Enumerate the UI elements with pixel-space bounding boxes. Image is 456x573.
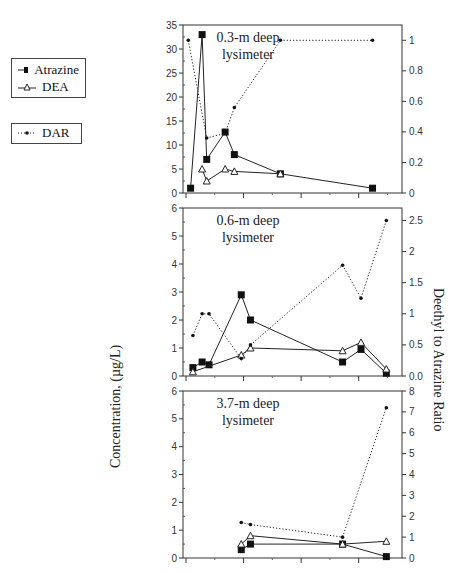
y-right-tick-label: 5	[409, 448, 415, 459]
atrazine-marker	[358, 346, 365, 353]
y-right-tick-label: 1	[409, 35, 415, 46]
y-tick-label: 5	[171, 413, 177, 424]
atrazine-marker	[383, 553, 390, 560]
y-right-tick-label: 0.4	[409, 126, 423, 137]
series-line-atrazine	[191, 35, 373, 189]
y-tick-label: 4	[171, 441, 177, 452]
y-tick-label: 5	[171, 164, 177, 175]
panel-title: lysimeter	[222, 230, 274, 245]
y-right-tick-label: 0.8	[409, 65, 423, 76]
y-tick-label: 4	[171, 259, 177, 270]
series-line-dea	[202, 169, 280, 181]
panel-2: 01234560.00.511.522.50.6-m deeplysimeter	[171, 203, 423, 382]
y-tick-label: 1	[171, 343, 177, 354]
y-tick-label: 15	[166, 116, 178, 127]
y-tick-label: 10	[166, 140, 178, 151]
atrazine-marker	[339, 359, 346, 366]
y-tick-label: 35	[166, 20, 178, 31]
panel-title: lysimeter	[222, 413, 274, 428]
y-tick-label: 0	[171, 188, 177, 199]
y-tick-label: 25	[166, 68, 178, 79]
dar-marker	[341, 535, 345, 539]
y-axis-right-title: Deethyl to Atrazine Ratio	[430, 288, 446, 431]
y-tick-label: 6	[171, 386, 177, 397]
dar-marker	[385, 219, 389, 223]
dar-marker	[223, 132, 227, 136]
y-right-tick-label: 4	[409, 469, 415, 480]
dar-marker	[205, 136, 209, 140]
dar-marker	[191, 334, 195, 338]
y-tick-label: 0	[171, 371, 177, 382]
dar-marker	[187, 38, 191, 42]
y-tick-label: 20	[166, 92, 178, 103]
panel-title: 0.6-m deep	[217, 213, 280, 228]
dar-marker	[279, 38, 283, 42]
atrazine-marker	[199, 359, 206, 366]
series-line-dea	[241, 536, 386, 544]
y-right-tick-label: 0	[409, 553, 415, 564]
dar-marker	[359, 296, 363, 300]
panel-title: 0.3-m deep	[217, 30, 280, 45]
atrazine-marker	[247, 317, 254, 324]
atrazine-marker	[187, 185, 194, 192]
y-right-tick-label: 0.0	[409, 371, 423, 382]
y-right-tick-label: 0.2	[409, 157, 423, 168]
y-right-tick-label: 6	[409, 427, 415, 438]
y-right-tick-label: 1.5	[409, 277, 423, 288]
y-right-tick-label: 1	[409, 308, 415, 319]
atrazine-marker	[238, 291, 245, 298]
dar-marker	[200, 312, 204, 316]
plot-frame	[183, 391, 402, 558]
y-tick-label: 3	[171, 469, 177, 480]
panel-3: 01234560123456783.7-m deeplysimeter	[171, 386, 415, 564]
atrazine-marker	[231, 151, 238, 158]
series-line-atrazine	[241, 544, 386, 557]
dea-marker	[358, 339, 365, 346]
y-tick-label: 1	[171, 525, 177, 536]
dar-marker	[385, 406, 389, 410]
atrazine-marker	[247, 541, 254, 548]
atrazine-marker	[203, 156, 210, 163]
dar-marker	[371, 38, 375, 42]
dar-marker	[249, 523, 253, 527]
panel-1: 0510152025303500.20.40.60.810.3-m deeply…	[166, 20, 423, 199]
dar-marker	[239, 521, 243, 525]
dea-marker	[199, 166, 206, 173]
y-tick-label: 6	[171, 203, 177, 214]
y-right-tick-label: 0.5	[409, 339, 423, 350]
dea-marker	[203, 178, 210, 185]
dar-marker	[249, 343, 253, 347]
series-line-dar	[188, 40, 372, 138]
y-right-tick-label: 0	[409, 188, 415, 199]
chart-canvas: 0510152025303500.20.40.60.810.3-m deeply…	[0, 0, 456, 573]
y-right-tick-label: 3	[409, 490, 415, 501]
dar-marker	[239, 357, 243, 361]
dar-marker	[207, 312, 211, 316]
y-right-tick-label: 8	[409, 386, 415, 397]
y-right-tick-label: 2	[409, 246, 415, 257]
dar-marker	[341, 263, 345, 267]
y-right-tick-label: 2.5	[409, 215, 423, 226]
atrazine-marker	[199, 31, 206, 38]
y-tick-label: 3	[171, 287, 177, 298]
y-right-tick-label: 0.6	[409, 96, 423, 107]
y-tick-label: 2	[171, 315, 177, 326]
panel-title: lysimeter	[222, 47, 274, 62]
series-line-dea	[193, 342, 386, 371]
y-tick-label: 30	[166, 44, 178, 55]
y-right-tick-label: 2	[409, 511, 415, 522]
dea-marker	[222, 166, 229, 173]
y-axis-left-title: Concentration, (µg/L)	[108, 345, 124, 468]
y-tick-label: 0	[171, 553, 177, 564]
plot-frame	[183, 25, 402, 193]
y-tick-label: 5	[171, 231, 177, 242]
y-right-tick-label: 1	[409, 532, 415, 543]
dar-marker	[233, 106, 237, 110]
y-right-tick-label: 7	[409, 406, 415, 417]
atrazine-marker	[369, 185, 376, 192]
y-tick-label: 2	[171, 497, 177, 508]
panel-title: 3.7-m deep	[217, 396, 280, 411]
